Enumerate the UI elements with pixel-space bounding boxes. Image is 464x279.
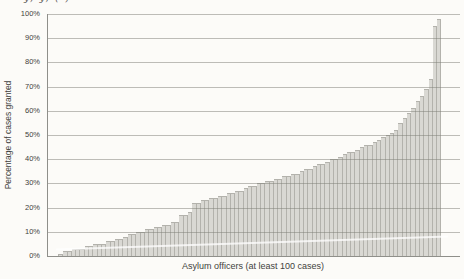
y-axis-labels: 0%10%20%30%40%50%60%70%80%90%100% (0, 0, 43, 279)
y-tick-label: 20% (0, 203, 40, 213)
y-tick-label: 90% (0, 33, 40, 43)
y-tick-label: 0% (0, 251, 40, 261)
plot-area (47, 14, 460, 257)
y-tick-label: 80% (0, 57, 40, 67)
y-tick-label: 40% (0, 154, 40, 164)
y-tick-label: 70% (0, 82, 40, 92)
asylum-grant-rate-chart: y, y, ( ) Percentage of cases granted 0%… (0, 0, 464, 279)
y-tick-label: 60% (0, 106, 40, 116)
y-tick-label: 50% (0, 130, 40, 140)
y-tick-label: 10% (0, 227, 40, 237)
bars (58, 14, 441, 256)
x-axis-title: Asylum officers (at least 100 cases) (47, 261, 459, 271)
y-tick-label: 30% (0, 178, 40, 188)
bar (437, 19, 441, 256)
y-tick-label: 100% (0, 9, 40, 19)
